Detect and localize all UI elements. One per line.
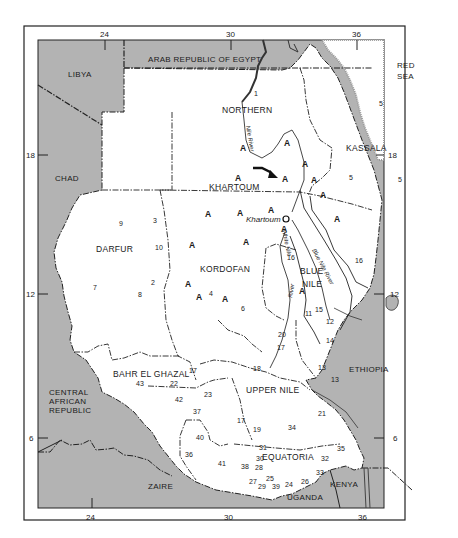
label-car-2: AFRICAN <box>49 397 86 406</box>
site-number: 18 <box>253 365 261 372</box>
label-car-1: CENTRAL <box>49 388 89 397</box>
site-number: 1 <box>254 90 258 97</box>
tick-right-18: 18 <box>388 151 397 160</box>
label-zaire: ZAIRE <box>148 482 173 491</box>
site-number: 2 <box>151 279 155 286</box>
site-number: 16 <box>355 257 363 264</box>
khartoum-city-marker <box>283 216 289 222</box>
site-number: 37 <box>193 408 201 415</box>
label-kenya: KENYA <box>330 480 358 489</box>
site-number: 14 <box>326 337 334 344</box>
tick-left-12: 12 <box>26 290 35 299</box>
site-number: 3 <box>153 217 157 224</box>
site-number: 13 <box>318 364 326 371</box>
site-number: 31 <box>259 444 267 451</box>
site-number: 22 <box>170 380 178 387</box>
label-bahr-el-ghazal: BAHR EL GHAZAL <box>113 369 190 379</box>
label-red-sea-1: RED <box>397 61 415 70</box>
site-number: 21 <box>318 410 326 417</box>
tick-bottom-36: 36 <box>358 513 367 522</box>
label-kordofan: KORDOFAN <box>200 264 250 274</box>
a-marker: A <box>189 240 195 250</box>
a-marker: A <box>284 138 290 148</box>
site-number: 23 <box>204 391 212 398</box>
a-marker: A <box>243 237 249 247</box>
site-number: 33 <box>316 469 324 476</box>
site-number: 20 <box>278 331 286 338</box>
a-marker: A <box>222 294 228 304</box>
tick-bottom-24: 24 <box>86 513 95 522</box>
site-number: 32 <box>321 455 329 462</box>
site-number: 26 <box>301 478 309 485</box>
site-number: 39 <box>272 483 280 490</box>
site-number: 6 <box>241 305 245 312</box>
site-number: 27 <box>249 478 257 485</box>
label-equatoria: EQUATORIA <box>262 452 314 462</box>
site-number: 15 <box>315 306 323 313</box>
site-number: 8 <box>138 291 142 298</box>
site-number: 41 <box>218 460 226 467</box>
site-number: 38 <box>241 463 249 470</box>
label-chad: CHAD <box>55 174 79 183</box>
site-number: 30 <box>256 455 264 462</box>
site-number: 17 <box>277 344 285 351</box>
site-number: 10 <box>155 244 163 251</box>
a-marker: A <box>311 175 317 185</box>
tick-right-6: 6 <box>393 434 398 443</box>
tick-left-6: 6 <box>29 434 34 443</box>
a-marker: A <box>282 174 288 184</box>
label-kassala: KASSALA <box>346 143 387 153</box>
a-marker: A <box>205 209 211 219</box>
label-northern: NORTHERN <box>222 105 272 115</box>
label-blue-nile-1: BLUE <box>300 266 323 276</box>
tick-top-30: 30 <box>226 30 235 39</box>
a-marker: A <box>240 143 246 153</box>
label-khartoum-city: Khartoum <box>246 215 281 224</box>
site-number: 5 <box>398 176 402 183</box>
site-number: 19 <box>253 426 261 433</box>
site-number: 12 <box>326 318 334 325</box>
site-number: 7 <box>93 284 97 291</box>
a-marker: A <box>268 205 274 215</box>
site-number: 11 <box>305 310 312 317</box>
label-car-3: REPUBLIC <box>49 406 91 415</box>
site-number: 17 <box>237 417 245 424</box>
site-number: 34 <box>288 424 296 431</box>
site-number: 4 <box>209 290 213 297</box>
site-number: 36 <box>185 451 193 458</box>
tick-top-24: 24 <box>100 30 109 39</box>
site-number: 5 <box>349 174 353 181</box>
tick-bottom-30: 30 <box>224 513 233 522</box>
a-marker: A <box>196 292 202 302</box>
label-khartoum: KHARTOUM <box>209 182 260 192</box>
a-marker: A <box>334 214 340 224</box>
a-marker: A <box>299 286 305 296</box>
label-upper-nile: UPPER NILE <box>246 385 300 395</box>
site-number: 24 <box>285 481 293 488</box>
site-number: 43 <box>136 380 144 387</box>
label-darfur: DARFUR <box>96 244 133 254</box>
site-number: 40 <box>196 434 204 441</box>
label-libya: LIBYA <box>68 70 92 79</box>
tick-top-36: 36 <box>352 30 361 39</box>
map-figure: 24 30 36 24 30 36 18 12 6 18 12 6 ARAB R… <box>0 0 458 538</box>
a-marker: A <box>320 190 326 200</box>
label-egypt: ARAB REPUBLIC OF EGYPT <box>148 55 261 64</box>
site-number: 13 <box>331 376 339 383</box>
site-number: 35 <box>337 445 345 452</box>
site-number: 9 <box>119 220 123 227</box>
a-marker: A <box>235 173 241 183</box>
a-marker: A <box>185 279 191 289</box>
site-number: 25 <box>266 475 274 482</box>
tick-left-18: 18 <box>26 151 35 160</box>
site-number: 17 <box>189 367 197 374</box>
site-number: 28 <box>255 464 263 471</box>
label-red-sea-2: SEA <box>397 72 414 81</box>
site-number: 5 <box>379 100 383 107</box>
label-uganda: UGANDA <box>287 493 323 502</box>
site-number: 16 <box>287 254 295 261</box>
tick-right-12: 12 <box>390 290 399 299</box>
label-ethiopia: ETHIOPIA <box>349 365 389 374</box>
a-marker: A <box>237 208 243 218</box>
site-number: 29 <box>258 483 266 490</box>
